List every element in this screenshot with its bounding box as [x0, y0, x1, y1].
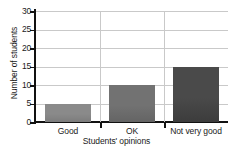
gridline-horizontal	[36, 30, 228, 31]
y-axis-tick-mark	[30, 122, 35, 124]
y-axis-tick-label: 25	[15, 25, 31, 34]
x-axis-tick-mark	[164, 123, 166, 128]
gridline-vertical	[100, 11, 101, 122]
y-axis-tick-label: 30	[15, 7, 31, 16]
y-axis-tick-mark	[30, 11, 35, 13]
y-axis-tick-labels: 051015202530	[12, 0, 31, 150]
y-axis-tick-mark	[30, 85, 35, 87]
y-axis-tick-mark	[30, 30, 35, 32]
y-axis-tick-label: 0	[15, 118, 31, 127]
y-axis-tick-mark	[30, 48, 35, 50]
plot-area	[36, 11, 228, 122]
x-axis-tick-mark	[100, 123, 102, 128]
y-axis-tick-label: 10	[15, 81, 31, 90]
gridline-vertical	[164, 11, 165, 122]
y-axis-tick-label: 20	[15, 44, 31, 53]
gridline-horizontal	[36, 11, 228, 12]
y-axis-tick-label: 15	[15, 62, 31, 71]
y-axis-tick-label: 5	[15, 99, 31, 108]
bar-not-very-good	[173, 67, 219, 123]
x-axis-tick-label: OK	[100, 126, 164, 136]
x-axis-tick-label: Good	[36, 126, 100, 136]
bar-ok	[109, 85, 155, 122]
bar-chart: Number of students 051015202530 Students…	[0, 0, 233, 150]
bar-good	[45, 104, 91, 123]
y-axis-tick-mark	[30, 104, 35, 106]
y-axis-tick-mark	[30, 67, 35, 69]
gridline-horizontal	[36, 48, 228, 49]
x-axis-tick-label: Not very good	[164, 126, 228, 136]
x-axis-title: Students' opinions	[0, 136, 233, 146]
